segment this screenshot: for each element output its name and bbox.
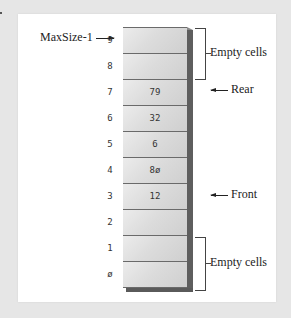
array-cell-0: ø <box>123 261 187 288</box>
cell-index: ø <box>105 269 115 279</box>
array-cell-2: 2 <box>123 209 187 235</box>
empty-cells-bottom-label: Empty cells <box>210 255 267 270</box>
array-cell-1: 1 <box>123 235 187 261</box>
cell-value: 8ø <box>123 165 187 175</box>
cell-index: 1 <box>105 243 115 253</box>
cell-index: 8 <box>105 61 115 71</box>
cell-value: 79 <box>123 87 187 97</box>
array-side-shade <box>187 30 193 292</box>
array-cell-6: 6 32 <box>123 105 187 131</box>
corner-mark <box>0 12 2 14</box>
cell-index: 2 <box>105 217 115 227</box>
array-bottom-shade <box>126 288 193 292</box>
array-cell-7: 7 79 <box>123 79 187 105</box>
empty-cells-top-bracket <box>195 28 206 80</box>
cell-value: 12 <box>123 191 187 201</box>
array-cell-9: 9 <box>123 27 187 53</box>
cell-index: 7 <box>105 87 115 97</box>
front-arrow-icon <box>211 195 228 196</box>
queue-array: 9 8 7 79 6 32 5 6 4 8ø 3 12 2 <box>123 27 187 288</box>
rear-label: Rear <box>231 82 254 97</box>
array-cell-5: 5 6 <box>123 131 187 157</box>
front-label: Front <box>231 187 257 202</box>
maxsize-label: MaxSize-1 <box>40 30 93 45</box>
cell-value: 32 <box>123 113 187 123</box>
empty-cells-top-label: Empty cells <box>210 45 267 60</box>
cell-index: 6 <box>105 113 115 123</box>
cell-index: 3 <box>105 191 115 201</box>
cell-index: 9 <box>105 35 115 45</box>
rear-arrow-icon <box>211 90 228 91</box>
diagram-panel: MaxSize-1 9 8 7 79 6 32 5 6 4 8ø 3 12 <box>18 14 276 302</box>
array-cell-4: 4 8ø <box>123 157 187 183</box>
empty-cells-bottom-bracket <box>195 237 206 291</box>
cell-value: 6 <box>123 139 187 149</box>
cell-index: 5 <box>105 139 115 149</box>
cell-index: 4 <box>105 165 115 175</box>
array-cell-3: 3 12 <box>123 183 187 209</box>
array-cell-8: 8 <box>123 53 187 79</box>
